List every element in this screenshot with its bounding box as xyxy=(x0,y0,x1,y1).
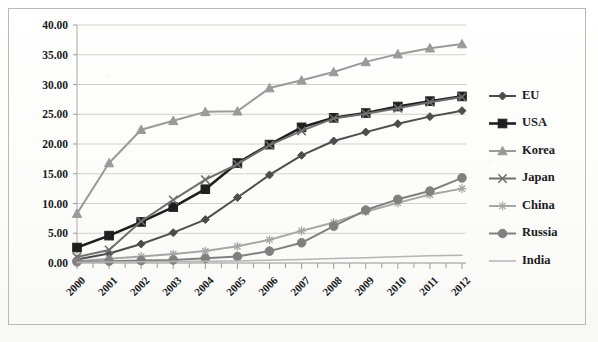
x-axis-tick-label: 2002 xyxy=(128,274,152,298)
series-marker-eu xyxy=(362,128,370,136)
x-axis-tick-label: 2003 xyxy=(160,274,184,298)
series-marker-russia xyxy=(137,256,146,265)
series-marker-russia xyxy=(426,187,435,196)
x-axis-tick-label: 2000 xyxy=(63,274,87,298)
series-marker-russia xyxy=(394,195,403,204)
x-axis-tick-label: 2012 xyxy=(448,274,472,298)
series-marker-usa xyxy=(105,231,114,240)
y-axis-tick-label: 15.00 xyxy=(42,168,68,180)
series-marker-usa xyxy=(73,243,82,252)
x-axis-tick-label: 2006 xyxy=(256,274,280,298)
x-axis-tick-label: 2005 xyxy=(224,274,248,298)
series-marker-russia xyxy=(297,238,306,247)
series-marker-eu xyxy=(169,229,177,237)
x-axis-tick-label: 2004 xyxy=(192,274,216,298)
y-axis-tick-label: 40.00 xyxy=(42,19,68,31)
y-axis-tick-label: 30.00 xyxy=(42,79,68,91)
series-marker-usa xyxy=(201,185,210,194)
y-axis-tick-label: 25.00 xyxy=(42,108,68,120)
x-axis-tick-label: 2009 xyxy=(352,274,376,298)
series-marker-russia xyxy=(265,247,274,256)
series-marker-russia xyxy=(361,206,370,215)
series-marker-russia xyxy=(105,257,114,266)
y-axis-tick-label: 20.00 xyxy=(42,138,68,150)
series-marker-eu xyxy=(394,120,402,128)
y-axis-tick-label: 10.00 xyxy=(42,198,68,210)
series-marker-russia xyxy=(458,174,467,183)
legend-label-eu: EU xyxy=(522,88,539,102)
legend-label-india: India xyxy=(522,253,551,267)
y-axis-tick-label: 5.00 xyxy=(48,227,68,239)
legend-label-russia: Russia xyxy=(522,225,558,239)
y-axis-tick-label: 35.00 xyxy=(42,49,68,61)
legend-marker-usa xyxy=(498,119,507,128)
line-chart: 0.005.0010.0015.0020.0025.0030.0035.0040… xyxy=(0,0,598,342)
series-line-korea xyxy=(77,44,462,214)
legend-label-china: China xyxy=(522,198,555,212)
x-axis-tick-label: 2007 xyxy=(288,274,312,298)
series-marker-russia xyxy=(329,222,338,231)
legend-marker-russia xyxy=(498,229,507,238)
x-axis-tick-label: 2001 xyxy=(95,274,119,298)
series-marker-russia xyxy=(233,252,242,261)
series-marker-eu xyxy=(458,107,466,115)
series-marker-russia xyxy=(169,256,178,265)
legend-marker-eu xyxy=(499,92,507,100)
x-axis-tick-label: 2010 xyxy=(384,274,408,298)
y-axis-tick-label: 0.00 xyxy=(48,257,68,269)
chart-page: 0.005.0010.0015.0020.0025.0030.0035.0040… xyxy=(0,0,598,342)
legend-label-usa: USA xyxy=(522,115,547,129)
legend-label-japan: Japan xyxy=(522,170,555,184)
series-marker-eu xyxy=(137,240,145,248)
legend-label-korea: Korea xyxy=(522,143,556,157)
x-axis-tick-label: 2008 xyxy=(320,274,344,298)
x-axis-tick-label: 2011 xyxy=(417,274,441,298)
